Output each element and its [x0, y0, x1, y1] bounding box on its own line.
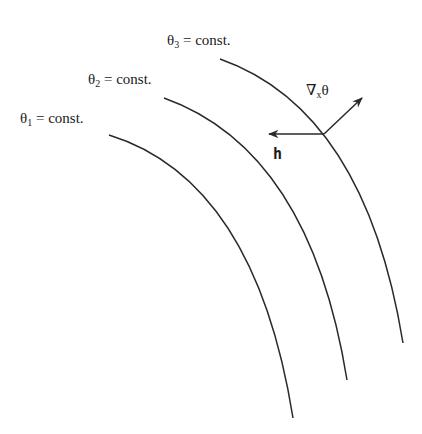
contour-theta2: [164, 98, 347, 380]
label-theta3: θ3 = const.: [167, 33, 231, 50]
label-gradient: ∇xθ: [306, 83, 329, 100]
theta-symbol: θ: [321, 82, 328, 98]
const-text: = const.: [32, 110, 83, 126]
contour-theta1: [109, 135, 293, 418]
const-text: = const.: [100, 71, 151, 87]
label-theta2: θ2 = const.: [88, 72, 152, 89]
const-text: = const.: [179, 32, 230, 48]
contour-theta3: [220, 59, 403, 343]
nabla-symbol: ∇: [306, 82, 316, 98]
label-h: h: [273, 147, 282, 162]
diagram-canvas: θ1 = const. θ2 = const. θ3 = const. ∇xθ …: [0, 0, 422, 434]
gradient-vector-arrow: [324, 98, 362, 134]
diagram-svg: [0, 0, 422, 434]
label-theta1: θ1 = const.: [20, 111, 84, 128]
